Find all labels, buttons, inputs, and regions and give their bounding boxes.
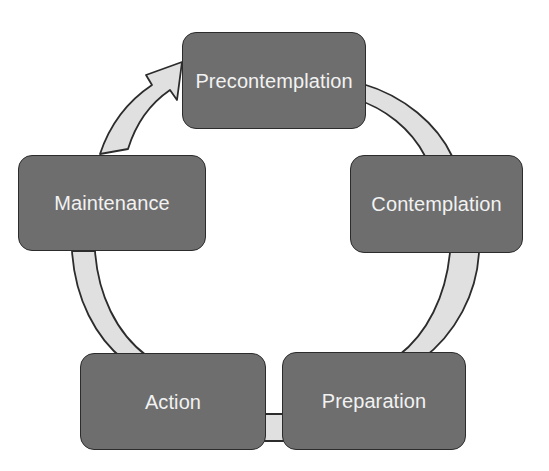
stage-label-action: Action bbox=[145, 392, 201, 412]
stage-label-precontemplation: Precontemplation bbox=[195, 71, 352, 91]
stage-node-precontemplation[interactable]: Precontemplation bbox=[182, 32, 366, 129]
stage-node-maintenance[interactable]: Maintenance bbox=[18, 155, 206, 251]
connector-action-to-maintenance bbox=[72, 251, 147, 360]
connector-precontemplation-to-contemplation bbox=[355, 84, 452, 156]
stage-node-preparation[interactable]: Preparation bbox=[282, 352, 466, 450]
stage-label-contemplation: Contemplation bbox=[371, 194, 501, 214]
connector-preparation-to-action bbox=[264, 414, 284, 441]
stage-label-preparation: Preparation bbox=[322, 391, 427, 411]
connector-maintenance-to-precontemplation bbox=[100, 62, 182, 154]
stage-node-contemplation[interactable]: Contemplation bbox=[350, 155, 523, 253]
connector-contemplation-to-preparation bbox=[398, 252, 479, 360]
stage-node-action[interactable]: Action bbox=[80, 353, 266, 450]
stage-label-maintenance: Maintenance bbox=[54, 193, 170, 213]
stages-of-change-diagram: Precontemplation Contemplation Preparati… bbox=[0, 0, 549, 471]
